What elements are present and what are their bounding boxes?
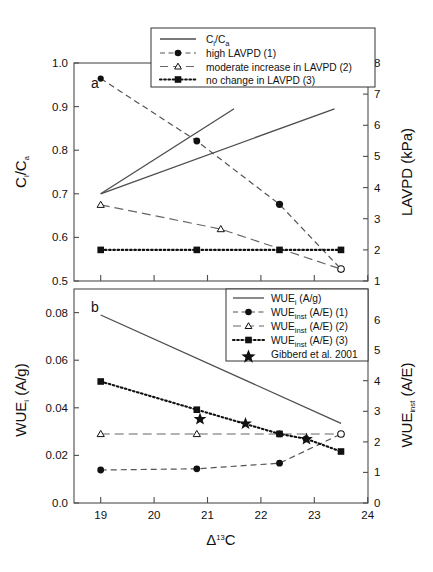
tick-label: 0.06	[46, 354, 68, 366]
data-point-square	[338, 247, 345, 254]
legend-marker-circle	[175, 50, 182, 57]
tick-label: 3	[374, 213, 380, 225]
svg-text:WUEi (A/g): WUEi (A/g)	[12, 363, 31, 436]
legend-marker-circle	[245, 309, 252, 316]
tick-label: 20	[148, 509, 161, 521]
tick-label: 0.5	[52, 275, 68, 287]
tick-label: 6	[374, 314, 380, 326]
tick-label: 5	[374, 344, 380, 356]
tick-label: 5	[374, 150, 380, 162]
legend-label: Gibberd et al. 2001	[271, 349, 358, 360]
data-point	[97, 467, 104, 474]
data-point-square	[338, 448, 345, 455]
tick-label: 0.08	[46, 307, 68, 319]
tick-label: 0.8	[52, 144, 68, 156]
legend-marker-square	[175, 76, 182, 83]
tick-label: 3	[374, 405, 380, 417]
data-point-square	[194, 247, 201, 254]
tick-label: 4	[374, 375, 381, 387]
tick-label: 19	[94, 509, 107, 521]
data-point-open	[338, 431, 345, 438]
tick-label: 2	[374, 244, 380, 256]
tick-label: 0.9	[52, 101, 68, 113]
legend-label: no change in LAVPD (3)	[206, 75, 315, 86]
panel-a-label: a	[91, 75, 99, 91]
tick-label: 1.0	[52, 57, 68, 69]
tick-label: 0	[374, 497, 380, 509]
tick-label: 0.02	[46, 449, 68, 461]
panel-b-left-axis-title: WUEi (A/g)	[12, 363, 31, 436]
figure-container: 0.5 0.6 0.7 0.8 0.9 1.0 1 2 3 4 5 6 7 8	[0, 0, 433, 572]
data-point-square	[97, 378, 104, 385]
tick-label: 0.04	[46, 402, 69, 414]
data-point	[98, 76, 104, 82]
panel-b-label: b	[91, 299, 99, 315]
axis-title-text: LAVPD (kPa)	[398, 128, 415, 216]
scientific-figure: 0.5 0.6 0.7 0.8 0.9 1.0 1 2 3 4 5 6 7 8	[0, 0, 433, 572]
tick-label: 2	[374, 436, 380, 448]
tick-label: 6	[374, 119, 380, 131]
tick-label: 0.7	[52, 188, 68, 200]
tick-label: 1	[374, 466, 380, 478]
tick-label: 0.0	[52, 497, 68, 509]
legend-label: moderate increase in LAVPD (2)	[206, 62, 352, 73]
data-point-square	[194, 406, 201, 413]
data-point-open	[338, 266, 345, 273]
tick-label: 22	[255, 509, 268, 521]
data-point	[193, 138, 200, 145]
tick-label: 23	[308, 509, 321, 521]
tick-label: 4	[374, 182, 381, 194]
legend-label: high LAVPD (1)	[206, 48, 276, 59]
tick-label: 24	[361, 509, 374, 521]
data-point-square	[97, 247, 104, 254]
data-point	[276, 460, 283, 467]
legend-marker-square	[245, 337, 252, 344]
tick-label: 0.6	[52, 231, 68, 243]
data-point	[276, 201, 283, 208]
tick-label: 7	[374, 88, 380, 100]
data-point	[276, 431, 283, 438]
tick-label: 1	[374, 275, 380, 287]
panel-a-legend: Ci/Ca high LAVPD (1) moderate increase i…	[151, 28, 375, 87]
axis-title-part: /C	[12, 160, 29, 175]
axis-title-part: C	[12, 177, 29, 188]
tick-label: 21	[201, 509, 214, 521]
panel-b-legend: WUEi (A/g) WUEinst (A/E) (1) WUEinst (A/…	[226, 289, 368, 363]
panel-a-right-axis-title: LAVPD (kPa)	[398, 128, 415, 216]
data-point-square	[276, 247, 283, 254]
data-point	[193, 465, 200, 472]
